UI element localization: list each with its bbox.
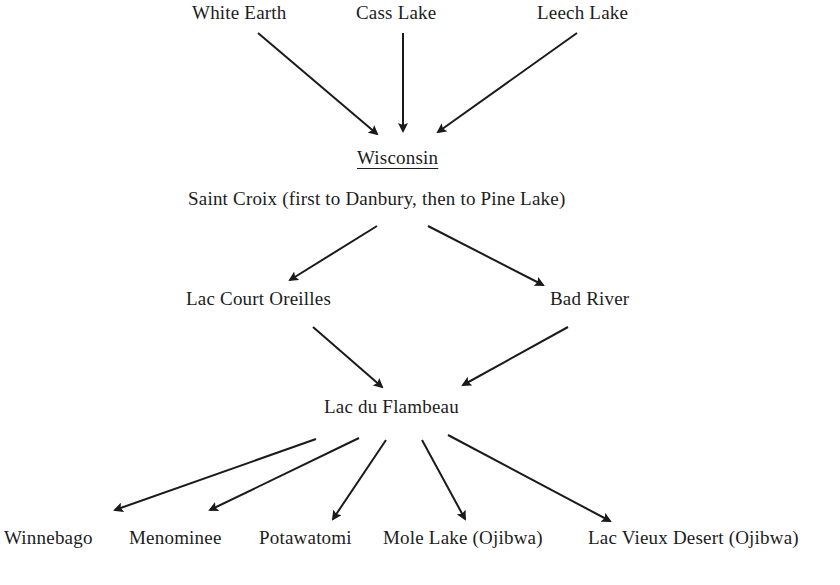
node-mole-lake: Mole Lake (Ojibwa) <box>383 527 543 549</box>
node-white-earth: White Earth <box>192 2 287 24</box>
arrow-lac_du_flambeau-to-menominee <box>210 438 359 510</box>
node-leech-lake: Leech Lake <box>537 2 628 24</box>
edge-layer <box>115 33 610 521</box>
arrow-lac_du_flambeau-to-winnebago <box>115 439 316 510</box>
arrow-lac_du_flambeau-to-potawatomi <box>333 440 386 519</box>
arrow-lac_court_oreilles-to-lac_du_flambeau <box>313 327 382 387</box>
node-lac-du-flambeau: Lac du Flambeau <box>324 396 459 418</box>
node-winnebago: Winnebago <box>4 527 93 549</box>
diagram-edges <box>0 0 840 585</box>
node-bad-river: Bad River <box>550 288 629 310</box>
node-wisconsin-heading: Wisconsin <box>357 147 438 169</box>
arrow-saint_croix-to-bad_river <box>428 226 543 285</box>
node-saint-croix: Saint Croix (first to Danbury, then to P… <box>188 188 565 210</box>
arrow-lac_du_flambeau-to-mole_lake <box>422 440 465 519</box>
arrow-white_earth-to-wisconsin <box>258 33 377 134</box>
arrow-lac_du_flambeau-to-lac_vieux_desert <box>448 435 610 521</box>
node-lac-court-oreilles: Lac Court Oreilles <box>186 288 331 310</box>
arrow-bad_river-to-lac_du_flambeau <box>463 327 568 385</box>
node-cass-lake: Cass Lake <box>356 2 436 24</box>
node-potawatomi: Potawatomi <box>259 527 352 549</box>
node-lac-vieux-desert: Lac Vieux Desert (Ojibwa) <box>588 527 799 549</box>
arrow-saint_croix-to-lac_court_oreilles <box>290 226 377 280</box>
arrow-leech_lake-to-wisconsin <box>438 33 577 132</box>
node-menominee: Menominee <box>129 527 222 549</box>
